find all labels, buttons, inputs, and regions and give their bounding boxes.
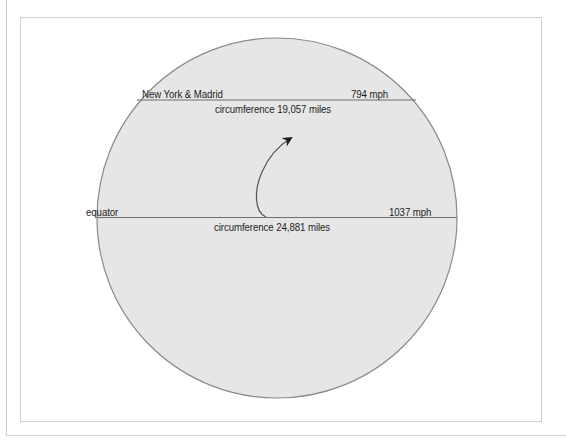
- equator-circumference-label: circumference 24,881 miles: [214, 221, 330, 233]
- latitude-place-label: New York & Madrid: [142, 88, 223, 100]
- latitude-circumference-label: circumference 19,057 miles: [215, 103, 331, 115]
- equator-place-label: equator: [86, 206, 118, 218]
- equator-speed-label: 1037 mph: [389, 206, 431, 218]
- latitude-speed-label: 794 mph: [351, 88, 388, 100]
